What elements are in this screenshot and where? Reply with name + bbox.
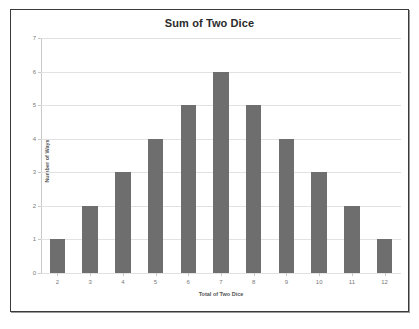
y-tick-mark — [38, 38, 41, 39]
bar[interactable] — [246, 105, 261, 273]
bar[interactable] — [344, 206, 359, 273]
x-tick-mark — [188, 273, 189, 276]
plot-area: 0123456723456789101112 — [41, 38, 401, 273]
x-tick-label: 5 — [154, 279, 157, 285]
y-tick-label: 3 — [33, 169, 36, 175]
bar[interactable] — [311, 172, 326, 273]
bar[interactable] — [148, 139, 163, 273]
x-tick-mark — [286, 273, 287, 276]
y-tick-label: 1 — [33, 236, 36, 242]
y-tick-label: 4 — [33, 136, 36, 142]
x-tick-mark — [385, 273, 386, 276]
y-tick-label: 2 — [33, 203, 36, 209]
y-tick-mark — [38, 239, 41, 240]
bar[interactable] — [82, 206, 97, 273]
bar[interactable] — [115, 172, 130, 273]
x-tick-mark — [319, 273, 320, 276]
y-tick-mark — [38, 172, 41, 173]
x-tick-mark — [123, 273, 124, 276]
y-tick-mark — [38, 105, 41, 106]
y-tick-label: 5 — [33, 102, 36, 108]
y-tick-label: 6 — [33, 69, 36, 75]
gridline — [41, 38, 401, 39]
x-axis-title: Total of Two Dice — [41, 291, 401, 297]
x-tick-mark — [57, 273, 58, 276]
x-tick-label: 3 — [88, 279, 91, 285]
bar[interactable] — [181, 105, 196, 273]
y-tick-mark — [38, 273, 41, 274]
bar[interactable] — [279, 139, 294, 273]
x-tick-label: 7 — [219, 279, 222, 285]
y-tick-mark — [38, 139, 41, 140]
x-tick-label: 2 — [56, 279, 59, 285]
x-tick-mark — [352, 273, 353, 276]
x-tick-label: 9 — [285, 279, 288, 285]
y-tick-mark — [38, 72, 41, 73]
bar[interactable] — [377, 239, 392, 273]
chart-title: Sum of Two Dice — [11, 17, 408, 29]
y-tick-mark — [38, 206, 41, 207]
x-tick-label: 6 — [187, 279, 190, 285]
x-tick-mark — [156, 273, 157, 276]
x-tick-label: 10 — [316, 279, 323, 285]
x-tick-mark — [221, 273, 222, 276]
y-tick-label: 7 — [33, 35, 36, 41]
x-tick-label: 11 — [349, 279, 355, 285]
x-tick-mark — [254, 273, 255, 276]
bar[interactable] — [50, 239, 65, 273]
chart-frame: Sum of Two Dice Number of Ways 012345672… — [10, 9, 409, 312]
bar[interactable] — [213, 72, 228, 273]
y-tick-label: 0 — [33, 270, 36, 276]
y-axis-line — [41, 38, 42, 273]
x-tick-label: 12 — [381, 279, 388, 285]
x-tick-label: 8 — [252, 279, 255, 285]
x-tick-mark — [90, 273, 91, 276]
x-tick-label: 4 — [121, 279, 124, 285]
